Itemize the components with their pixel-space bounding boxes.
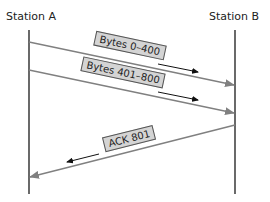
station-b-label: Station B [209, 10, 259, 23]
station-a-label: Station A [6, 10, 56, 23]
sequence-diagram [0, 0, 270, 202]
